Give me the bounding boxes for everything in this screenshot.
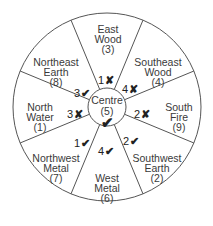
cross-icon: ✘ [141,108,150,120]
mark-count: 4 [122,83,128,95]
mark-count: 1 [74,137,80,149]
sector-number: (7) [50,172,63,184]
mark-count: 2 [134,108,140,120]
sector-number: (3) [102,43,115,55]
sector-east-wood: East Wood (3) 1 ✘ [94,23,121,86]
sector-number: (8) [50,76,63,88]
sector-north-water: North Water (1) 3 ✘ [26,101,82,133]
sector-southeast-wood: Southeast Wood (4) 4 ✘ [122,56,182,95]
sector-southwest-earth: Southwest Earth (2) 2 ✔ [123,135,182,184]
mark-count: 3 [74,87,80,99]
sector-number: (2) [151,172,164,184]
mark-count: 1 [98,74,104,86]
bagua-wheel-diagram: Centre (5) ✔ East Wood (3) 1 ✘ Southeast… [0,0,213,226]
cross-icon: ✘ [129,83,138,95]
mark-count: 4 [98,145,104,157]
check-icon: ✔ [81,137,90,149]
sector-number: (4) [152,76,165,88]
check-icon: ✔ [101,114,114,131]
mark-count: 3 [67,108,73,120]
sector-number: (1) [34,121,47,133]
check-icon: ✔ [105,145,114,157]
check-icon: ✔ [81,87,90,99]
cross-icon: ✘ [105,74,114,86]
sector-number: (6) [101,192,114,204]
sector-northeast-earth: Northeast Earth (8) 3 ✔ [33,56,89,99]
spoke-line [114,20,143,89]
sector-number: (9) [173,121,186,133]
mark-count: 2 [123,135,129,147]
check-icon: ✔ [130,135,139,147]
sector-northwest-metal: Northwest Metal (7) 1 ✔ [32,137,89,184]
sector-west-metal: West Metal (6) 4 ✔ [94,145,120,204]
sector-south-fire: South Fire (9) 2 ✘ [134,101,193,133]
cross-icon: ✘ [74,108,83,120]
spoke-line [71,20,100,89]
